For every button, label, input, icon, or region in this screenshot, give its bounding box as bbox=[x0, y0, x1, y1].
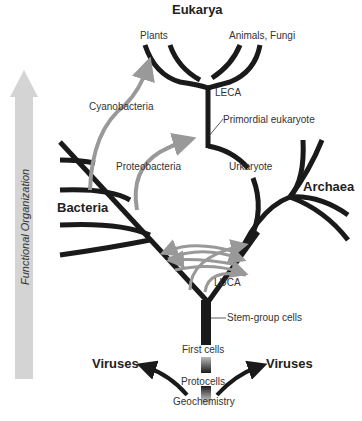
cyanobacteria-label: Cyanobacteria bbox=[89, 101, 154, 112]
protocells-label: Protocells bbox=[181, 376, 225, 387]
eukarya-label: Eukarya bbox=[172, 2, 223, 17]
functional-organization-label: Functional Organization bbox=[19, 169, 31, 285]
archaea-branches bbox=[232, 140, 348, 272]
urkaryote-label: Urkaryote bbox=[229, 161, 273, 172]
primordial-eukaryote-pointer bbox=[209, 119, 223, 136]
viruses-left-label: Viruses bbox=[92, 356, 139, 371]
protocell-segment bbox=[201, 357, 211, 373]
geochemistry-label: Geochemistry bbox=[173, 396, 235, 407]
stem-group-cells-label: Stem-group cells bbox=[227, 312, 302, 323]
archaea-label: Archaea bbox=[303, 179, 355, 194]
leca-label: LECA bbox=[215, 87, 241, 98]
plants-label: Plants bbox=[140, 30, 168, 41]
luca-label: LUCA bbox=[214, 277, 241, 288]
primordial-eukaryote-label: Primordial eukaryote bbox=[223, 114, 315, 125]
proteobacteria-label: Proteobacteria bbox=[116, 161, 181, 172]
tree-of-life-diagram: Functional Organization bbox=[0, 0, 362, 421]
first-cells-label: First cells bbox=[182, 344, 224, 355]
bacteria-label: Bacteria bbox=[57, 200, 109, 215]
viruses-right-label: Viruses bbox=[266, 356, 313, 371]
animals-fungi-label: Animals, Fungi bbox=[229, 30, 295, 41]
luca-trunk bbox=[201, 300, 211, 345]
